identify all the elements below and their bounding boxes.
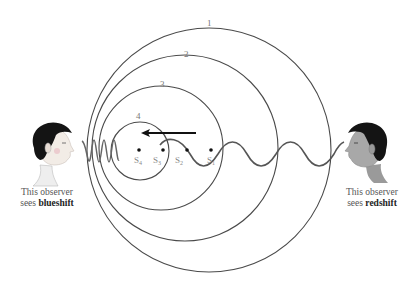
redshift-wave	[160, 139, 344, 166]
wavefront-label-4: 4	[136, 111, 141, 121]
source-dot-s1	[209, 148, 213, 152]
right-observer-caption: This observer sees redshift	[327, 187, 416, 209]
wavefront-3	[99, 86, 223, 210]
doppler-diagram: 1 2 3 4 S4 S3 S2 S1	[0, 0, 416, 282]
source-label-s3: S3	[153, 155, 161, 166]
right-caption-line2: sees redshift	[327, 198, 416, 209]
wavefront-label-1: 1	[207, 18, 212, 28]
wavefront-1	[87, 28, 331, 272]
left-caption-line2: sees blueshift	[2, 198, 92, 209]
right-caption-line1: This observer	[327, 187, 416, 198]
redshift-label: redshift	[365, 198, 397, 208]
wavefront-label-2: 2	[184, 49, 189, 59]
source-label-s1: S1	[207, 155, 215, 166]
source-label-s4: S4	[134, 155, 142, 166]
source-dot-s3	[161, 148, 165, 152]
motion-arrow	[141, 129, 196, 137]
left-observer-head-icon	[33, 122, 74, 186]
left-caption-line1: This observer	[2, 187, 92, 198]
diagram-canvas: 1 2 3 4 S4 S3 S2 S1	[0, 0, 416, 282]
wavefront-label-3: 3	[160, 79, 165, 89]
source-dot-s2	[185, 148, 189, 152]
right-observer-head-icon	[345, 122, 388, 183]
left-observer-caption: This observer sees blueshift	[2, 187, 92, 209]
source-dot-s4	[137, 148, 141, 152]
source-label-s2: S2	[175, 155, 183, 166]
blueshift-label: blueshift	[38, 198, 73, 208]
